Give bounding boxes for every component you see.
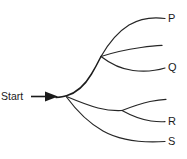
branch-root-to-s bbox=[67, 97, 166, 142]
endpoint-label-p: P bbox=[168, 13, 175, 24]
diagram-canvas: Start P Q R S bbox=[0, 0, 187, 159]
branch-upper-to-p bbox=[101, 18, 165, 57]
branch-stem-to-root bbox=[56, 96, 67, 98]
endpoint-label-r: R bbox=[168, 116, 176, 127]
branch-root-to-lower-node bbox=[67, 97, 123, 111]
branching-tree-diagram bbox=[0, 0, 187, 159]
start-label: Start bbox=[1, 91, 23, 102]
branch-root-to-upper-node bbox=[67, 57, 102, 96]
branch-lower-to-r bbox=[122, 111, 165, 122]
start-arrow-icon bbox=[31, 92, 58, 102]
endpoint-label-s: S bbox=[168, 136, 175, 147]
endpoint-label-q: Q bbox=[168, 62, 177, 73]
branch-upper-to-middle bbox=[101, 45, 162, 56]
branch-upper-to-q bbox=[101, 57, 165, 72]
branch-lower-to-top bbox=[122, 99, 166, 110]
